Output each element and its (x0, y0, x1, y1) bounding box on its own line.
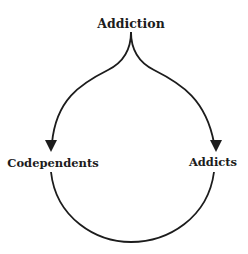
label-codependents: Codependents (7, 156, 98, 170)
arrowhead-codependents-icon (45, 140, 57, 152)
connector-codependents-to-addicts (51, 172, 214, 242)
cycle-diagram: Addiction Codependents Addicts (0, 0, 248, 254)
connector-addiction-to-addicts (131, 32, 214, 143)
label-addicts: Addicts (188, 155, 237, 169)
connector-addiction-to-codependents (52, 32, 131, 143)
arrowhead-addicts-icon (210, 140, 222, 152)
label-addiction: Addiction (96, 16, 165, 31)
